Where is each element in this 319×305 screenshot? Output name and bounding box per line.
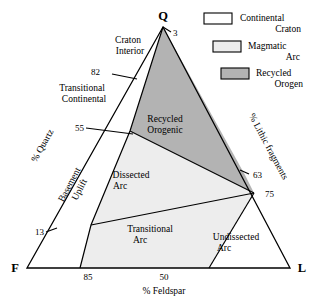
tick-label-75: 75: [265, 189, 275, 199]
legend-label-recycled-orogen-line1: Recycled: [256, 68, 292, 78]
legend-label-continental-craton-line2: Craton: [275, 24, 301, 34]
legend-swatch-magmatic-arc: [213, 41, 241, 52]
field-label-transitional-arc-line2: Arc: [133, 235, 147, 245]
field-label-transitional-continental-line2: Continental: [62, 94, 107, 104]
tick-label-82: 82: [91, 67, 100, 77]
apex-label-f: F: [11, 261, 19, 275]
apex-label-l: L: [298, 261, 306, 275]
tick-label-13: 13: [35, 227, 45, 237]
tick-label-85: 85: [84, 272, 94, 282]
legend-label-recycled-orogen-line2: Orogen: [275, 79, 304, 89]
field-label-dissected-arc-line1: Dissected: [113, 170, 150, 180]
field-label-undissected-arc-line1: Undissected: [213, 232, 260, 242]
field-label-recycled-orogenic-line1: Recycled: [147, 114, 183, 124]
field-label-craton-interior-line1: Craton: [115, 35, 141, 45]
legend-label-continental-craton-line1: Continental: [240, 13, 285, 23]
legend-swatch-recycled-orogen: [221, 68, 249, 79]
field-label-transitional-continental-line1: Transitional: [59, 83, 105, 93]
tick-label-63: 63: [253, 170, 263, 180]
tick-label-50: 50: [160, 272, 170, 282]
field-label-recycled-orogenic-line2: Orogenic: [147, 125, 182, 135]
apex-label-q: Q: [158, 9, 168, 23]
tick-label-3: 3: [173, 28, 178, 38]
tick-label-55: 55: [75, 123, 85, 133]
qfl-ternary-diagram: Q F L 3 82 55 13 85 50 63 75 % Feldspar …: [0, 0, 319, 305]
boundary-craton-interior: [112, 74, 137, 79]
field-label-dissected-arc-line2: Arc: [113, 181, 127, 191]
field-label-undissected-arc-line2: Arc: [217, 243, 231, 253]
legend-label-magmatic-arc-line1: Magmatic: [248, 41, 287, 51]
legend: Continental Craton Magmatic Arc Recycled…: [204, 13, 303, 89]
field-label-transitional-arc-line1: Transitional: [127, 224, 173, 234]
axis-label-left: % Quartz: [29, 127, 55, 163]
axis-label-bottom: % Feldspar: [142, 286, 186, 296]
legend-label-magmatic-arc-line2: Arc: [286, 52, 300, 62]
field-label-craton-interior-line2: Interior: [116, 46, 145, 56]
legend-swatch-continental-craton: [204, 13, 232, 24]
